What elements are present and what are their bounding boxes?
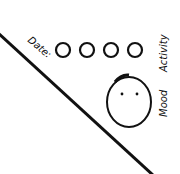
mood-face-icon[interactable]	[107, 75, 151, 127]
activity-circles	[56, 43, 142, 57]
diagonal-divider-line	[0, 33, 154, 174]
date-label: Date:	[26, 34, 54, 60]
face-outline	[107, 77, 151, 127]
activity-circle[interactable]	[80, 43, 94, 57]
mood-label: Mood	[158, 89, 169, 117]
activity-circle[interactable]	[128, 43, 142, 57]
activity-circle[interactable]	[104, 43, 118, 57]
right-eye	[136, 93, 139, 96]
activity-label: Activity	[158, 33, 169, 73]
activity-circle[interactable]	[56, 43, 70, 57]
journal-sketch: Date: Activity Mood	[0, 0, 180, 174]
left-eye	[121, 93, 124, 96]
